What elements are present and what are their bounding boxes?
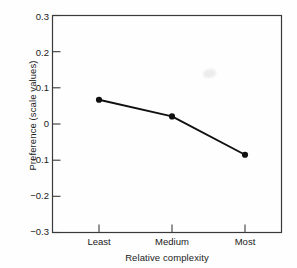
x-tick-marks xyxy=(99,225,245,233)
data-point-medium xyxy=(169,113,175,119)
y-tick-marks xyxy=(53,16,61,233)
plot-frame xyxy=(53,16,282,233)
data-series-line xyxy=(99,100,245,155)
plot-area xyxy=(0,0,297,268)
data-point-least xyxy=(96,97,102,103)
data-point-most xyxy=(242,152,248,158)
chart-figure: Preference (scale values) 0.3 0.2 0.1 0 … xyxy=(0,0,297,268)
data-series-markers xyxy=(96,97,248,158)
